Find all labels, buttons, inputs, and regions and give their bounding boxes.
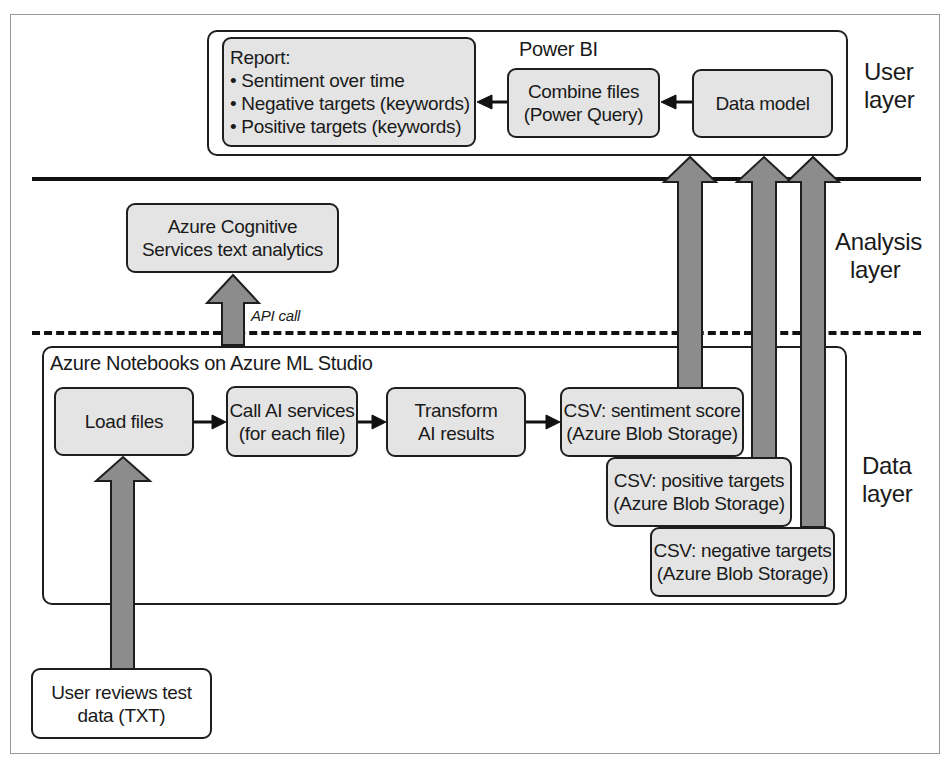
csv-negative-box: CSV: negative targets (Azure Blob Storag… xyxy=(650,527,835,597)
arrow-up-negative-icon xyxy=(787,157,839,527)
source-data-box: User reviews test data (TXT) xyxy=(31,668,212,739)
arrow-right-call-ai-icon xyxy=(212,415,226,429)
arrow-up-positive-icon xyxy=(737,157,791,458)
arrow-left-report-icon xyxy=(477,95,492,109)
arrow-left-combine-icon xyxy=(661,95,676,109)
csv-positive-box: CSV: positive targets (Azure Blob Storag… xyxy=(606,457,792,527)
arrow-up-sentiment-icon xyxy=(664,157,716,388)
csv-sentiment-box: CSV: sentiment score (Azure Blob Storage… xyxy=(560,387,744,457)
arrow-right-csv-icon xyxy=(546,415,560,429)
api-call-arrow-icon xyxy=(207,275,259,345)
arrow-up-load-icon xyxy=(96,457,150,669)
arrows-layer xyxy=(0,0,951,763)
arrow-right-transform-icon xyxy=(372,415,386,429)
